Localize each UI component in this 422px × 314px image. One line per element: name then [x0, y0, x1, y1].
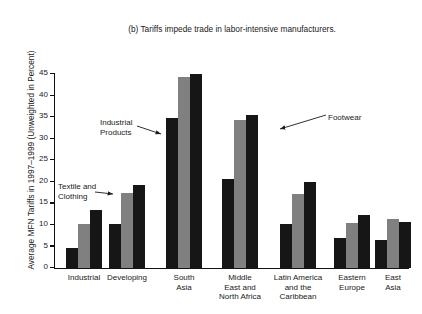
- x-axis-label-east-asia: EastAsia: [348, 273, 422, 292]
- y-tick-label: 0: [24, 262, 48, 271]
- y-tick-mark: [50, 245, 54, 246]
- bar-textile-and-clothing-industrial: [78, 224, 89, 268]
- annotation-footwear: Footwear: [328, 113, 361, 123]
- y-tick-mark: [50, 181, 54, 182]
- y-tick-mark: [50, 138, 54, 139]
- chart-title: (b) Tariffs impede trade in labor-intens…: [72, 24, 392, 35]
- bar-industrial-products-south-asia: [166, 118, 177, 268]
- annotation-line: Footwear: [328, 113, 361, 123]
- y-tick-label: 45: [24, 68, 48, 77]
- bar-industrial-products-industrial: [66, 248, 77, 267]
- bar-industrial-products-eastern-europe: [334, 238, 345, 267]
- annotation-line: Clothing: [58, 192, 96, 202]
- bar-industrial-products-developing: [109, 224, 120, 267]
- bar-footwear-latin-america-and-the-caribbean: [304, 182, 315, 268]
- y-tick-label: 10: [24, 219, 48, 228]
- y-tick-label: 35: [24, 111, 48, 120]
- x-axis-label-line: East: [348, 273, 422, 283]
- y-tick-mark: [50, 202, 54, 203]
- leader-line-footwear: [280, 115, 326, 129]
- y-tick-mark: [50, 159, 54, 160]
- annotation-line: Textile and: [58, 182, 96, 192]
- bar-footwear-industrial: [90, 210, 101, 267]
- leader-line-industrial-products: [137, 126, 161, 134]
- bar-industrial-products-east-asia: [375, 240, 386, 267]
- y-tick-label: 40: [24, 90, 48, 99]
- y-tick-label: 5: [24, 241, 48, 250]
- annotation-line: Products: [100, 128, 132, 138]
- bar-footwear-eastern-europe: [358, 215, 369, 268]
- y-tick-mark: [50, 224, 54, 225]
- bar-footwear-east-asia: [399, 222, 410, 268]
- annotation-industrial-products: IndustrialProducts: [100, 118, 132, 137]
- bar-footwear-middle-east-and-north-africa: [246, 115, 257, 268]
- bar-textile-and-clothing-east-asia: [387, 219, 398, 267]
- bar-textile-and-clothing-middle-east-and-north-africa: [234, 120, 245, 268]
- bar-textile-and-clothing-south-asia: [178, 77, 189, 268]
- y-tick-label: 30: [24, 133, 48, 142]
- y-tick-mark: [50, 73, 54, 74]
- x-axis-line: [54, 268, 409, 269]
- annotation-line: Industrial: [100, 118, 132, 128]
- bar-textile-and-clothing-developing: [121, 193, 132, 268]
- y-tick-mark: [50, 267, 54, 268]
- y-tick-label: 25: [24, 154, 48, 163]
- y-tick-mark: [50, 95, 54, 96]
- bar-industrial-products-middle-east-and-north-africa: [222, 179, 233, 268]
- x-axis-label-line: Caribbean: [253, 292, 343, 302]
- bar-footwear-developing: [133, 185, 144, 267]
- bar-textile-and-clothing-eastern-europe: [346, 223, 357, 268]
- annotation-textile-and-clothing: Textile andClothing: [58, 182, 96, 201]
- chart-figure: (b) Tariffs impede trade in labor-intens…: [0, 0, 422, 314]
- y-tick-label: 20: [24, 176, 48, 185]
- bar-footwear-south-asia: [190, 74, 201, 268]
- x-axis-label-line: Asia: [348, 283, 422, 293]
- bar-industrial-products-latin-america-and-the-caribbean: [280, 224, 291, 267]
- y-tick-mark: [50, 116, 54, 117]
- y-tick-label: 15: [24, 197, 48, 206]
- y-axis-line: [54, 73, 55, 269]
- bar-textile-and-clothing-latin-america-and-the-caribbean: [292, 194, 303, 267]
- leader-line-textile-and-clothing: [95, 192, 113, 194]
